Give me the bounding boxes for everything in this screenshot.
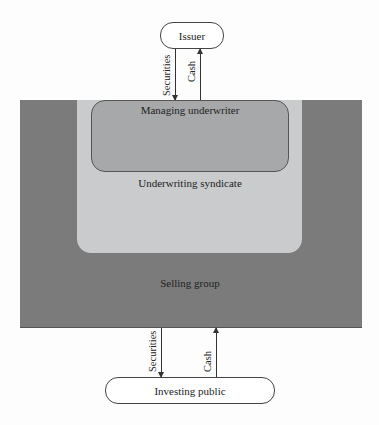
securities-arrow-down-top [175, 49, 176, 100]
issuer-node: Issuer [160, 22, 224, 49]
cash-arrow-up-bottom [216, 328, 217, 377]
securities-label-bottom: Securities [147, 331, 158, 372]
cash-arrow-up-top [200, 49, 201, 100]
investing-public-node: Investing public [105, 377, 275, 404]
cash-label-bottom: Cash [202, 351, 213, 372]
issuer-label: Issuer [179, 30, 205, 42]
managing-underwriter-label: Managing underwriter [141, 104, 240, 116]
selling-group-label: Selling group [160, 277, 220, 289]
securities-arrow-down-bottom [161, 328, 162, 377]
investing-public-label: Investing public [154, 385, 225, 397]
underwriting-syndicate-label: Underwriting syndicate [138, 177, 242, 189]
securities-label-top: Securities [161, 55, 172, 96]
cash-label-top: Cash [186, 61, 197, 82]
